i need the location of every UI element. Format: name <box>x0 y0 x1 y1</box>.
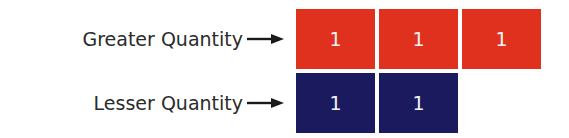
unit-block: 1 <box>296 73 375 133</box>
unit-block: 1 <box>296 9 375 69</box>
unit-block: 1 <box>462 9 541 69</box>
greater-quantity-row: 1 1 1 <box>296 9 541 69</box>
lesser-quantity-label: Lesser Quantity <box>94 92 243 114</box>
lesser-quantity-row: 1 1 <box>296 73 458 133</box>
right-arrow-icon <box>247 33 284 45</box>
unit-block: 1 <box>379 73 458 133</box>
right-arrow-icon <box>247 97 284 109</box>
unit-block: 1 <box>379 9 458 69</box>
greater-quantity-label: Greater Quantity <box>82 28 243 50</box>
